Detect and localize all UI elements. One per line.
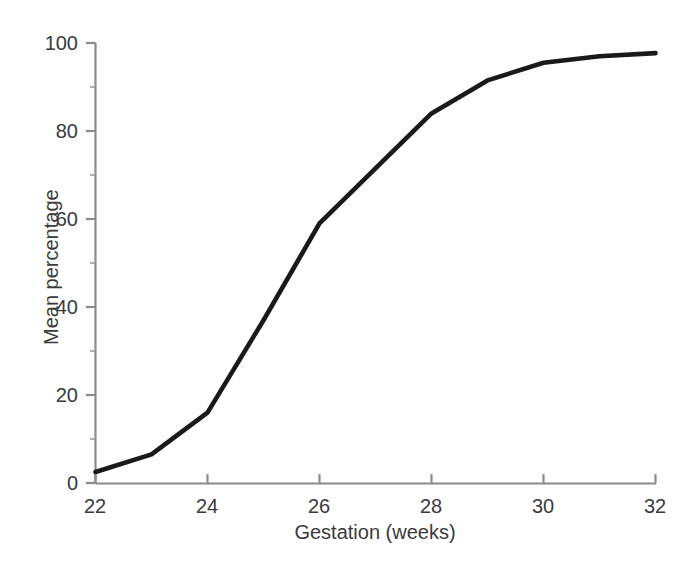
caption-sliver <box>0 555 698 569</box>
x-tick-label-28: 28 <box>420 495 442 518</box>
chart-plot-area <box>0 0 698 569</box>
x-axis-title: Gestation (weeks) <box>294 521 455 544</box>
x-tick-label-26: 26 <box>308 495 330 518</box>
y-tick-label-0: 0 <box>20 472 78 495</box>
y-axis-title: Mean percentage <box>40 189 63 345</box>
chart-figure: 100 80 60 40 20 0 22 24 26 28 30 32 Mean… <box>0 0 698 569</box>
x-major-ticks <box>96 474 656 484</box>
x-tick-label-22: 22 <box>84 495 106 518</box>
y-tick-label-20: 20 <box>20 384 78 407</box>
data-series-line <box>96 53 656 472</box>
y-tick-label-100: 100 <box>20 32 78 55</box>
x-tick-label-30: 30 <box>532 495 554 518</box>
x-tick-label-24: 24 <box>196 495 218 518</box>
y-tick-label-80: 80 <box>20 120 78 143</box>
x-tick-label-32: 32 <box>644 495 666 518</box>
